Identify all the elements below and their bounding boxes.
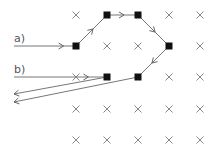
path-node — [73, 43, 80, 50]
path-node — [104, 12, 111, 19]
path-node — [135, 74, 142, 81]
grid-cross-icon — [73, 106, 80, 113]
grid-cross-icon — [166, 12, 173, 19]
grid-cross-icon — [73, 12, 80, 19]
path-node — [166, 43, 173, 50]
path-b — [14, 77, 107, 94]
grid-cross-icon — [104, 43, 111, 50]
grid-cross-icon — [166, 106, 173, 113]
path-a — [14, 15, 169, 102]
grid-cross-icon — [197, 12, 204, 19]
lattice-path-diagram: a) b) — [0, 0, 215, 158]
grid-cross-icon — [135, 106, 142, 113]
path-edges — [14, 15, 169, 102]
path-node — [104, 74, 111, 81]
grid-cross-icon — [104, 106, 111, 113]
path-node — [135, 12, 142, 19]
grid-cross-icon — [197, 137, 204, 144]
grid-cross-icon — [166, 137, 173, 144]
path-labels: a) b) — [14, 32, 25, 76]
grid-cross-icon — [135, 137, 142, 144]
grid-cross-icon — [73, 137, 80, 144]
label-b: b) — [14, 63, 25, 76]
label-a: a) — [14, 32, 25, 45]
grid-cross-icon — [197, 43, 204, 50]
grid-cross-icon — [135, 43, 142, 50]
path-nodes — [73, 12, 173, 81]
grid-cross-icon — [197, 74, 204, 81]
grid-cross-icon — [197, 106, 204, 113]
grid-cross-icon — [166, 74, 173, 81]
grid-cross-icon — [104, 137, 111, 144]
